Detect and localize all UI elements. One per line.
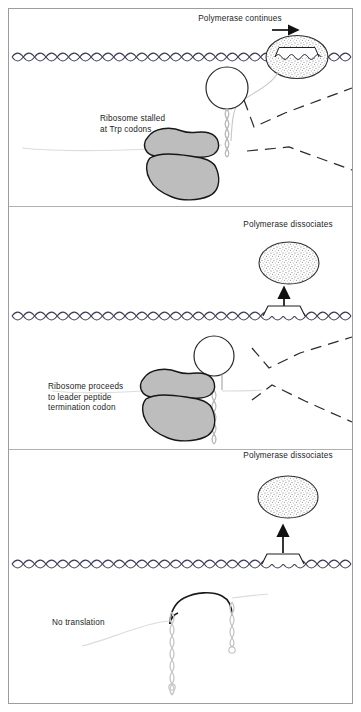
no-translation-label: No translation [52, 618, 105, 627]
rna-polymerase-icon [258, 476, 318, 518]
rna-polymerase-icon [259, 242, 319, 284]
terminator-hairpin-icon [263, 306, 305, 316]
attenuation-figure: Polymerase continues Ribosome stalled at… [0, 0, 361, 712]
polymerase-continues-label: Polymerase continues [198, 14, 282, 23]
rna-polymerase-icon [266, 36, 328, 79]
terminator-hairpin-icon [262, 554, 304, 564]
polymerase-dissociates-label: Polymerase dissociates [243, 451, 332, 460]
polymerase-dissociates-label: Polymerase dissociates [243, 220, 332, 229]
